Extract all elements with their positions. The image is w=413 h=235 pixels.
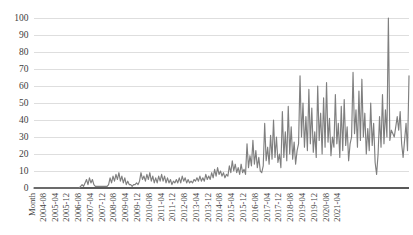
x-axis-tick-label: 2009-12 [132, 193, 142, 222]
x-axis-tick-label: 2017-04 [262, 192, 272, 221]
x-axis-tick-label: 2012-08 [179, 193, 189, 222]
x-axis-tick-label: 2019-04 [297, 192, 307, 221]
x-axis-tick-label: 2007-04 [85, 192, 95, 221]
x-axis-tick-label: 2019-12 [309, 193, 319, 222]
x-axis-tick-label: 2010-08 [144, 193, 154, 222]
x-axis-tick-label: 2015-12 [238, 193, 248, 222]
x-axis-tick-label: 2013-04 [191, 192, 201, 221]
x-axis-tick-label: 2005-04 [50, 192, 60, 221]
x-axis-tick-label: 2018-08 [285, 193, 295, 222]
x-axis-tick-label: 2021-04 [332, 192, 342, 221]
y-axis-tick-label: 60 [19, 81, 29, 91]
chart-canvas: 0102030405060708090100 Month2004-082005-… [0, 0, 413, 235]
line-chart: 0102030405060708090100 Month2004-082005-… [0, 0, 413, 235]
x-axis-tick-label: 2014-08 [214, 193, 224, 222]
x-axis-tick-label: 2016-08 [250, 193, 260, 222]
x-axis-tick-labels: Month2004-082005-042005-122006-082007-04… [27, 192, 342, 221]
x-axis-tick-label: 2020-08 [321, 193, 331, 222]
y-axis-tick-label: 80 [19, 47, 29, 57]
y-axis-tick-label: 70 [19, 64, 29, 74]
x-axis-tick-label: 2015-04 [226, 192, 236, 221]
x-axis-tick-label: 2013-12 [203, 193, 213, 222]
y-axis-tick-labels: 0102030405060708090100 [14, 13, 29, 193]
x-axis-tick-label: 2005-12 [61, 193, 71, 222]
y-axis-tick-label: 100 [14, 13, 29, 23]
y-axis-tick-label: 50 [19, 98, 29, 108]
x-axis-tick-label: 2011-04 [156, 192, 166, 221]
y-axis-tick-label: 40 [19, 115, 29, 125]
y-axis-tick-label: 10 [19, 166, 29, 176]
y-axis-tick-label: 0 [24, 183, 29, 193]
x-axis-tick-label: 2004-08 [38, 193, 48, 222]
x-axis-tick-label: 2017-12 [273, 193, 283, 222]
y-axis-tick-label: 20 [19, 149, 29, 159]
x-axis-tick-label: Month [27, 192, 37, 216]
x-axis-tick-label: 2009-04 [120, 192, 130, 221]
y-axis-tick-label: 30 [19, 132, 29, 142]
x-axis-tick-label: 2007-12 [97, 193, 107, 222]
y-axis-tick-label: 90 [19, 30, 29, 40]
x-axis-tick-label: 2008-08 [108, 193, 118, 222]
x-axis-tick-label: 2011-12 [167, 193, 177, 221]
x-axis-tick-label: 2006-08 [73, 193, 83, 222]
